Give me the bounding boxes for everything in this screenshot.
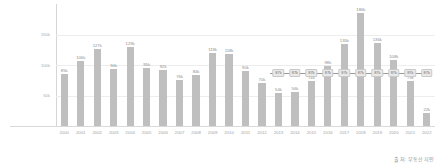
bar[interactable] — [94, 49, 101, 126]
bar-series: 85k106k127k94k129k95k92k76k84k119k118k90… — [56, 4, 435, 126]
plot-area: 50k100k150k 85k106k127k94k129k95k92k76k8… — [0, 0, 442, 164]
y-tick-label: 50k — [10, 93, 50, 98]
bar[interactable] — [110, 69, 117, 126]
bar-slot[interactable]: 135k — [336, 4, 352, 126]
bar-slot[interactable]: 85k — [56, 4, 72, 126]
bar[interactable] — [225, 54, 232, 126]
bar-slot[interactable]: 84k — [188, 4, 204, 126]
bar-slot[interactable]: 54k — [270, 4, 286, 126]
bar[interactable] — [341, 44, 348, 126]
line-point-label[interactable]: 87k — [355, 69, 366, 77]
y-tick-label: 100k — [10, 63, 50, 68]
line-point-label[interactable]: 87k — [322, 69, 333, 77]
bar-slot[interactable]: 98k — [320, 4, 336, 126]
bar[interactable] — [143, 68, 150, 126]
x-tick-label: 2022 — [414, 130, 440, 136]
bar[interactable] — [242, 71, 249, 126]
bar[interactable] — [407, 81, 414, 126]
bar-slot[interactable]: 70k — [254, 4, 270, 126]
bar-slot[interactable]: 56k — [287, 4, 303, 126]
x-axis — [10, 126, 435, 127]
bar-slot[interactable]: 136k — [369, 4, 385, 126]
bar-chart: 50k100k150k 85k106k127k94k129k95k92k76k8… — [0, 0, 442, 164]
line-point-label[interactable]: 87k — [339, 69, 350, 77]
bar-slot[interactable]: 76k — [171, 4, 187, 126]
bar[interactable] — [275, 93, 282, 126]
bar[interactable] — [291, 92, 298, 126]
bar-slot[interactable]: 92k — [155, 4, 171, 126]
bar[interactable] — [159, 70, 166, 126]
line-point-label[interactable]: 87k — [289, 69, 300, 77]
y-tick-label: 150k — [10, 32, 50, 37]
bar-slot[interactable]: 106k — [72, 4, 88, 126]
line-point-label[interactable]: 87k — [273, 69, 284, 77]
line-point-label[interactable]: 87k — [405, 69, 416, 77]
bar-slot[interactable]: 186k — [353, 4, 369, 126]
bar-slot[interactable]: 119k — [204, 4, 220, 126]
bar[interactable] — [374, 43, 381, 126]
bar[interactable] — [192, 75, 199, 126]
bar[interactable] — [423, 113, 430, 126]
bar-slot[interactable]: 94k — [105, 4, 121, 126]
bar[interactable] — [209, 53, 216, 126]
bar-value-label: 22k — [415, 107, 439, 112]
line-point-label[interactable]: 87k — [388, 69, 399, 77]
bar[interactable] — [258, 83, 265, 126]
bar[interactable] — [127, 47, 134, 126]
line-point-label[interactable]: 87k — [306, 69, 317, 77]
bar[interactable] — [176, 80, 183, 126]
bar-slot[interactable]: 108k — [386, 4, 402, 126]
line-point-label[interactable]: 87k — [372, 69, 383, 77]
bar[interactable] — [77, 61, 84, 126]
bar[interactable] — [61, 74, 68, 126]
source-caption: 출처: 부동산지인 — [394, 155, 434, 162]
bar-slot[interactable]: 90k — [237, 4, 253, 126]
line-point-label[interactable]: 87k — [421, 69, 432, 77]
bar-slot[interactable]: 22k — [419, 4, 435, 126]
bar[interactable] — [308, 81, 315, 126]
